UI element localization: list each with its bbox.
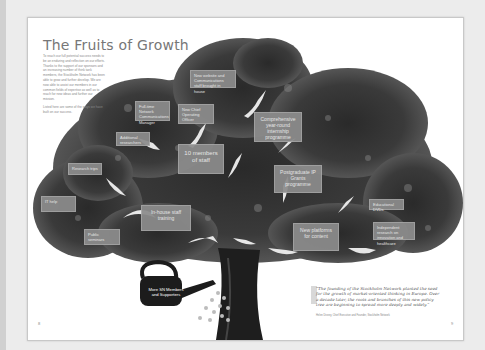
box-educational-dvds: Educational DVDs [369,199,404,210]
page-title: The Fruits of Growth [43,37,189,53]
intro-paragraph: Listed here are some of the ways we have… [43,105,105,115]
box-it-help: IT help [41,196,76,212]
box-public-seminars: Public seminars [84,229,120,245]
box-new-platforms-for-content: New platforms for content [293,223,339,251]
box-independent-research: Independent research on innovation and h… [373,222,415,240]
box-research-trips: Research trips [68,163,102,175]
quote-attribution: Helen Disney, Chief Executive and Founde… [316,314,441,317]
box-network-communications: Full-time Network Communications Manager [135,101,170,121]
box-in-house-staff-training: In-house staff training [141,205,191,231]
page-number-right: 9 [451,321,453,326]
box-new-website: New website and Communications staff bro… [190,70,236,88]
page-number-left: 8 [38,321,40,326]
watering-can-label: More SN Members and Supporters [146,287,186,297]
intro-text: To reach our full potential success need… [43,54,105,118]
box-internship-programme: Comprehensive year-round internship prog… [254,112,302,142]
box-ten-members-of-staff: 10 members of staff [178,144,224,174]
pull-quote: “The founding of the Stockholm Network p… [316,286,441,308]
box-chief-operating-officer: New Chief Operating Officer [178,104,214,124]
document-spread: The Fruits of Growth To reach our full p… [27,17,464,341]
box-postgraduate-ip-grants: Postgraduate IP Grants programme [274,165,322,193]
intro-paragraph: To reach our full potential success need… [43,54,105,102]
box-additional-researchers: Additional researchers [116,132,150,146]
viewer-gutter [0,0,6,350]
